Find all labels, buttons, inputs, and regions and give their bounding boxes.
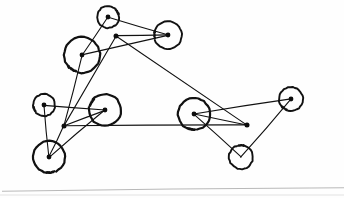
sketch-canvas xyxy=(0,0,344,198)
node-circle-overshoot xyxy=(33,107,36,112)
node-circle-overshoot xyxy=(154,32,155,39)
graph-node xyxy=(279,87,303,111)
graph-edge xyxy=(64,125,248,126)
graph-edge xyxy=(116,36,248,126)
node-circle-overshoot xyxy=(238,145,244,146)
graph-node xyxy=(114,34,119,39)
free-dot xyxy=(245,123,250,128)
node-circle-overshoot xyxy=(46,171,54,173)
graph-node xyxy=(245,123,250,128)
graph-node xyxy=(33,141,65,173)
graph-edge xyxy=(44,105,49,157)
edge-layer xyxy=(44,17,291,157)
node-circle-overshoot xyxy=(187,128,195,129)
node-center-dot xyxy=(106,15,111,20)
node-center-dot xyxy=(166,33,171,38)
graph-edge xyxy=(108,17,167,34)
graph-node xyxy=(64,37,101,74)
node-circle-overshoot xyxy=(90,99,94,106)
node-circle-overshoot xyxy=(115,9,118,14)
page-rules xyxy=(0,188,344,195)
node-center-dot xyxy=(47,155,52,160)
free-dot xyxy=(114,34,119,39)
node-center-dot xyxy=(80,53,85,58)
page-baseline xyxy=(2,188,344,191)
node-center-dot xyxy=(192,112,197,117)
graph-node xyxy=(62,124,67,129)
node-center-dot xyxy=(289,97,294,102)
graph-edge xyxy=(116,35,169,36)
graph-edge xyxy=(194,114,241,157)
node-center-dot xyxy=(103,108,108,113)
free-dot xyxy=(62,124,67,129)
graph-edge xyxy=(49,110,105,158)
graph-node xyxy=(97,6,119,28)
graph-node xyxy=(89,94,121,126)
hand-drawn-graph xyxy=(0,0,344,198)
node-center-dot xyxy=(42,103,47,108)
graph-edge xyxy=(44,105,105,110)
graph-edge xyxy=(64,55,82,126)
node-circle-overshoot xyxy=(69,66,76,71)
graph-node xyxy=(33,94,55,117)
